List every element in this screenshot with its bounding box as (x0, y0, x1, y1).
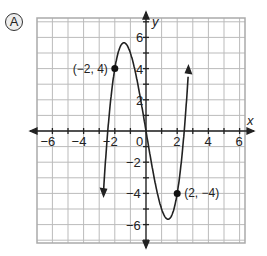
y-tick-label: 2 (136, 93, 143, 108)
y-tick-label: 6 (136, 30, 143, 45)
y-tick-label: 4 (136, 62, 143, 77)
y-tick-label: −4 (126, 186, 141, 201)
point-label: (−2, 4) (73, 62, 108, 76)
y-tick-label: −2 (126, 155, 141, 170)
x-tick-label: 4 (204, 134, 211, 149)
x-tick-label: −4 (72, 134, 87, 149)
x-axis-label: x (246, 113, 254, 128)
point-marker (111, 65, 118, 72)
y-tick-label: −6 (126, 218, 141, 233)
x-tick-label: −2 (103, 134, 118, 149)
x-tick-label: 6 (236, 134, 243, 149)
point-marker (174, 190, 181, 197)
graph: (−2, 4)(2, −4) −6−4−20246642−2−4−6xy (0, 0, 267, 256)
x-tick-label: 2 (173, 134, 180, 149)
x-tick-label: 0 (136, 134, 143, 149)
x-tick-label: −6 (40, 134, 55, 149)
axes (30, 12, 254, 248)
point-label: (2, −4) (184, 186, 219, 200)
